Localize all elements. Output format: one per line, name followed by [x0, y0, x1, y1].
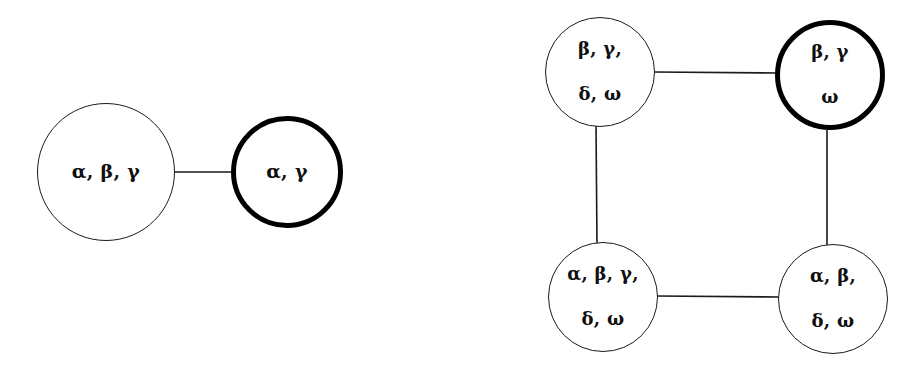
- node-beta-gamma-omega-highlighted[interactable]: β, γ ω: [775, 20, 885, 130]
- node-alpha-beta-delta-omega[interactable]: α, β, δ, ω: [778, 244, 888, 354]
- right-graph: β, γ, δ, ω β, γ ω α, β, γ, δ, ω α, β, δ,…: [0, 0, 921, 369]
- diagram-canvas: α, β, γ α, γ β, γ, δ, ω β, γ ω α, β, γ, …: [0, 0, 921, 369]
- edge-R3-R4-bottom: [657, 296, 780, 297]
- node-beta-gamma-delta-omega-label-line-2: δ, ω: [579, 85, 622, 104]
- node-beta-gamma-omega-label-line-1: β, γ: [811, 43, 849, 62]
- node-beta-gamma-delta-omega-label-line-1: β, γ,: [578, 40, 622, 59]
- edge-R1-R3-left: [596, 124, 597, 246]
- node-alpha-beta-gamma-delta-omega-label-line-1: α, β, γ,: [567, 265, 638, 284]
- node-alpha-beta-delta-omega-label-line-1: α, β,: [810, 267, 856, 286]
- node-alpha-beta-delta-omega-label-line-2: δ, ω: [812, 312, 855, 331]
- node-alpha-beta-gamma-delta-omega-label-line-2: δ, ω: [582, 310, 625, 329]
- node-alpha-beta-gamma-delta-omega[interactable]: α, β, γ, δ, ω: [548, 242, 658, 352]
- node-beta-gamma-delta-omega[interactable]: β, γ, δ, ω: [545, 17, 655, 127]
- node-beta-gamma-omega-label-line-2: ω: [821, 88, 838, 107]
- edge-R1-R2-top: [654, 72, 777, 73]
